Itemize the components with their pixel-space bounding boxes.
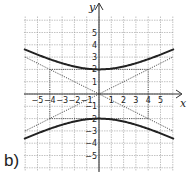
y-tick-label: 5 xyxy=(92,29,97,38)
x-tick-label: −3 xyxy=(56,96,68,105)
x-tick-label: 1 xyxy=(109,96,114,105)
part-label: b) xyxy=(4,151,19,171)
y-axis-label: y xyxy=(88,1,96,14)
graph-canvas: x y −5−4−3−2−11234554321−1−2−3−4−5 xyxy=(0,0,192,178)
y-tick-label: −5 xyxy=(85,152,97,161)
x-tick-label: 3 xyxy=(133,96,138,105)
x-tick-label: −2 xyxy=(69,96,81,105)
x-tick-label: −4 xyxy=(44,96,56,105)
y-tick-label: 1 xyxy=(92,78,97,87)
axes: x y xyxy=(24,1,187,172)
x-tick-label: 2 xyxy=(121,96,126,105)
y-tick-label: −3 xyxy=(85,127,97,136)
x-tick-label: 5 xyxy=(158,96,163,105)
x-tick-label: 4 xyxy=(146,96,151,105)
y-tick-label: 4 xyxy=(92,41,97,50)
y-tick-label: −4 xyxy=(85,139,97,148)
y-tick-label: −1 xyxy=(85,102,97,111)
x-axis-label: x xyxy=(180,97,187,110)
x-tick-label: −5 xyxy=(32,96,44,105)
y-tick-label: 3 xyxy=(92,53,97,62)
